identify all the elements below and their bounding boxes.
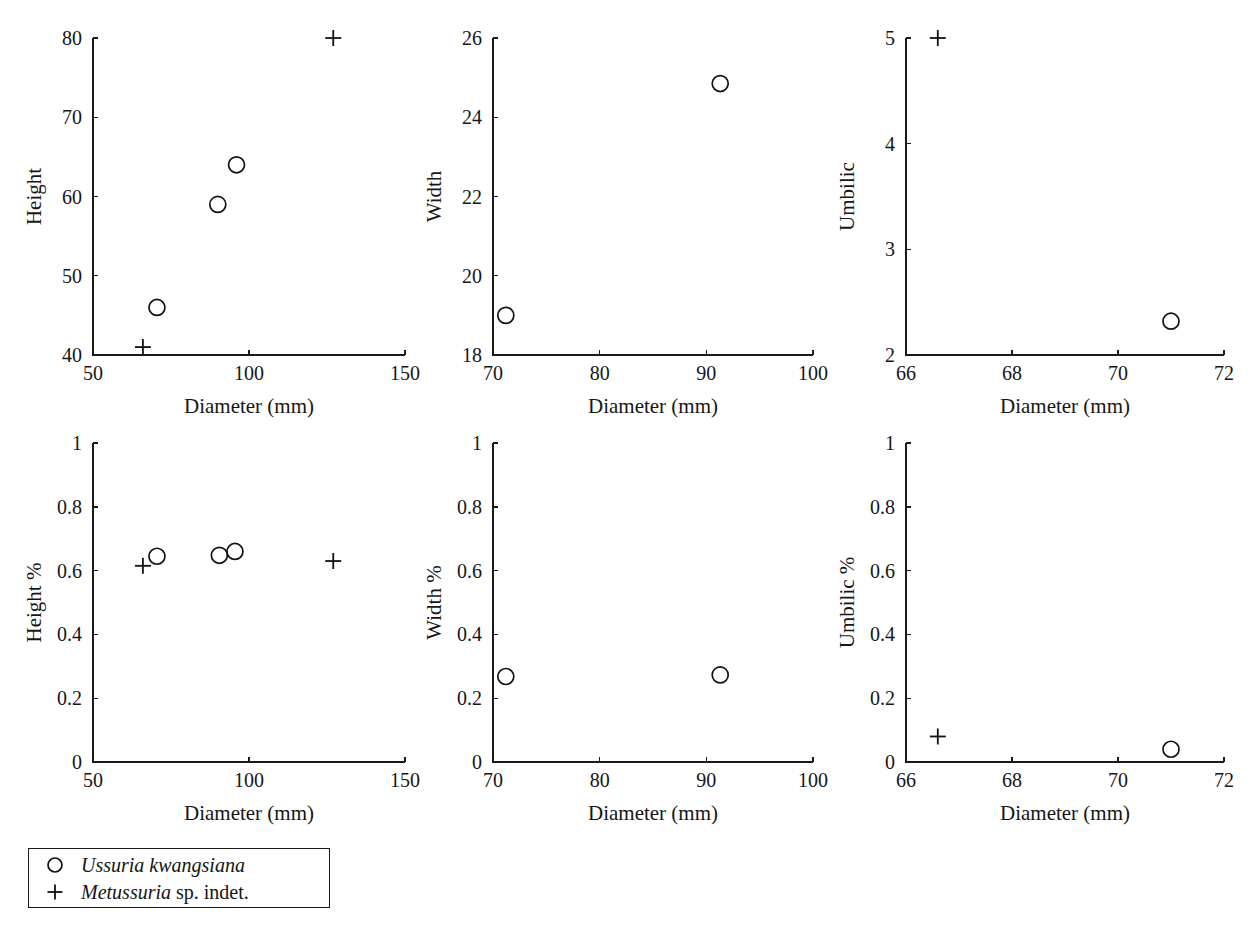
x-tick-label: 90 xyxy=(696,769,716,791)
chart-height-vs-diameter: 501001504050607080Diameter (mm)Height xyxy=(0,0,430,420)
panel-umbilic-vs-diameter: 666870722345Diameter (mm)Umbilic xyxy=(836,0,1252,420)
plus-marker-icon xyxy=(29,881,81,903)
y-tick-label: 24 xyxy=(462,106,482,128)
y-tick-label: 0 xyxy=(472,751,482,773)
y-tick-label: 0.4 xyxy=(57,623,82,645)
y-axis-title: Width % xyxy=(422,565,446,639)
y-tick-label: 40 xyxy=(62,344,82,366)
x-tick-label: 72 xyxy=(1214,362,1234,384)
x-tick-label: 80 xyxy=(590,362,610,384)
axis-lines xyxy=(906,443,1224,762)
data-point-circle xyxy=(712,76,728,92)
chart-width-percent-vs-diameter: 70809010000.20.40.60.81Diameter (mm)Widt… xyxy=(420,412,840,832)
y-tick-label: 0.2 xyxy=(457,687,482,709)
scatter-plot-figure: 501001504050607080Diameter (mm)Height 70… xyxy=(0,0,1252,930)
axis-lines xyxy=(93,443,405,762)
axis-lines xyxy=(493,443,813,762)
x-tick-label: 100 xyxy=(234,362,264,384)
panel-width-percent-vs-diameter: 70809010000.20.40.60.81Diameter (mm)Widt… xyxy=(420,412,840,832)
data-point-circle xyxy=(211,547,227,563)
y-tick-label: 0.8 xyxy=(870,496,895,518)
axis-lines xyxy=(93,38,405,355)
y-tick-label: 0 xyxy=(72,751,82,773)
y-tick-label: 0.2 xyxy=(57,687,82,709)
data-point-circle xyxy=(149,548,165,564)
y-tick-label: 1 xyxy=(885,432,895,454)
x-tick-label: 100 xyxy=(798,362,828,384)
legend-species-name: Ussuria kwangsiana xyxy=(81,854,245,876)
legend-species-name: Metussuria xyxy=(81,881,171,903)
y-axis-title: Umbilic xyxy=(836,162,859,231)
y-tick-label: 0.8 xyxy=(457,496,482,518)
chart-umbilic-percent-vs-diameter: 6668707200.20.40.60.81Diameter (mm)Umbil… xyxy=(836,412,1252,832)
data-point-circle xyxy=(149,299,165,315)
chart-width-vs-diameter: 7080901001820222426Diameter (mm)Width xyxy=(420,0,840,420)
x-axis-title: Diameter (mm) xyxy=(588,801,718,825)
data-point-plus xyxy=(930,30,946,46)
y-tick-label: 18 xyxy=(462,344,482,366)
x-tick-label: 70 xyxy=(1108,769,1128,791)
legend-item: Metussuria sp. indet. xyxy=(29,878,329,906)
x-tick-label: 70 xyxy=(483,769,503,791)
legend-label: Ussuria kwangsiana xyxy=(81,854,245,877)
chart-umbilic-vs-diameter: 666870722345Diameter (mm)Umbilic xyxy=(836,0,1252,420)
x-tick-label: 150 xyxy=(390,362,420,384)
data-point-plus xyxy=(325,553,341,569)
y-tick-label: 5 xyxy=(885,27,895,49)
x-tick-label: 80 xyxy=(590,769,610,791)
x-tick-label: 66 xyxy=(896,362,916,384)
y-tick-label: 0.6 xyxy=(57,560,82,582)
data-point-plus xyxy=(325,30,341,46)
panel-umbilic-percent-vs-diameter: 6668707200.20.40.60.81Diameter (mm)Umbil… xyxy=(836,412,1252,832)
data-point-circle xyxy=(210,196,226,212)
x-axis-title: Diameter (mm) xyxy=(184,801,314,825)
legend-species-qualifier: sp. indet. xyxy=(171,881,249,903)
x-tick-label: 50 xyxy=(83,769,103,791)
legend-item: Ussuria kwangsiana xyxy=(29,851,329,879)
data-point-circle xyxy=(1163,741,1179,757)
x-axis-title: Diameter (mm) xyxy=(1000,801,1130,825)
panel-height-percent-vs-diameter: 5010015000.20.40.60.81Diameter (mm)Heigh… xyxy=(0,412,430,832)
data-point-circle xyxy=(712,667,728,683)
y-tick-label: 0.2 xyxy=(870,687,895,709)
legend: Ussuria kwangsiana Metussuria sp. indet. xyxy=(28,848,330,908)
y-axis-title: Height xyxy=(22,168,46,225)
y-tick-label: 20 xyxy=(462,265,482,287)
y-tick-label: 0 xyxy=(885,751,895,773)
axis-lines xyxy=(493,38,813,355)
panel-height-vs-diameter: 501001504050607080Diameter (mm)Height xyxy=(0,0,430,420)
data-point-plus xyxy=(930,728,946,744)
data-point-circle xyxy=(1163,313,1179,329)
y-tick-label: 4 xyxy=(885,133,895,155)
data-point-circle xyxy=(227,543,243,559)
x-tick-label: 70 xyxy=(483,362,503,384)
y-tick-label: 70 xyxy=(62,106,82,128)
legend-label: Metussuria sp. indet. xyxy=(81,881,249,904)
data-point-circle xyxy=(498,669,514,685)
y-tick-label: 3 xyxy=(885,238,895,260)
y-tick-label: 0.4 xyxy=(870,623,895,645)
y-axis-title: Umbilic % xyxy=(836,557,859,649)
y-tick-label: 50 xyxy=(62,265,82,287)
x-tick-label: 68 xyxy=(1002,362,1022,384)
data-point-circle xyxy=(229,157,245,173)
y-tick-label: 80 xyxy=(62,27,82,49)
x-tick-label: 66 xyxy=(896,769,916,791)
y-tick-label: 0.6 xyxy=(457,560,482,582)
x-tick-label: 72 xyxy=(1214,769,1234,791)
y-tick-label: 60 xyxy=(62,186,82,208)
y-tick-label: 0.8 xyxy=(57,496,82,518)
panel-width-vs-diameter: 7080901001820222426Diameter (mm)Width xyxy=(420,0,840,420)
x-tick-label: 50 xyxy=(83,362,103,384)
y-axis-title: Width xyxy=(422,170,446,222)
chart-height-percent-vs-diameter: 5010015000.20.40.60.81Diameter (mm)Heigh… xyxy=(0,412,430,832)
y-tick-label: 0.6 xyxy=(870,560,895,582)
axis-lines xyxy=(906,38,1224,355)
y-tick-label: 26 xyxy=(462,27,482,49)
y-axis-title: Height % xyxy=(22,563,46,643)
x-tick-label: 90 xyxy=(696,362,716,384)
y-tick-label: 1 xyxy=(472,432,482,454)
data-point-plus xyxy=(135,558,151,574)
y-tick-label: 2 xyxy=(885,344,895,366)
x-tick-label: 68 xyxy=(1002,769,1022,791)
